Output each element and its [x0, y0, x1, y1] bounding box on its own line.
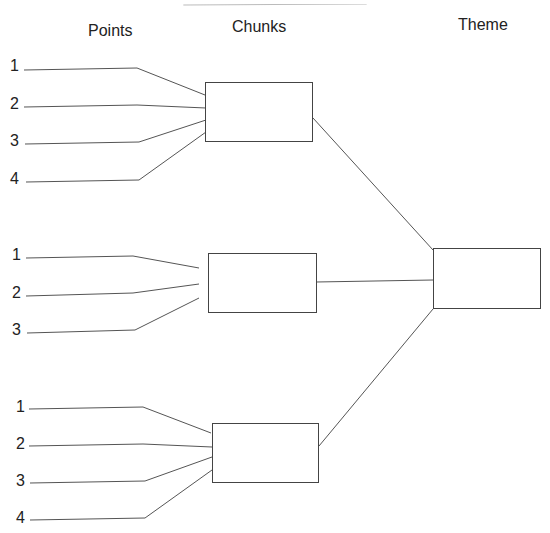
chunk-box-2[interactable] [208, 253, 317, 313]
chunk-box-3[interactable] [212, 423, 319, 483]
chunk-box-1[interactable] [205, 82, 313, 142]
theme-box[interactable] [433, 248, 541, 309]
